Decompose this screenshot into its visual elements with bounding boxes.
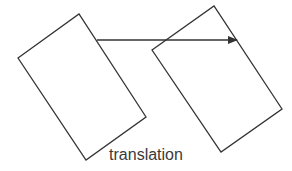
caption-label: translation — [0, 146, 292, 164]
translated-rectangle — [152, 6, 282, 152]
original-rectangle — [18, 14, 146, 160]
